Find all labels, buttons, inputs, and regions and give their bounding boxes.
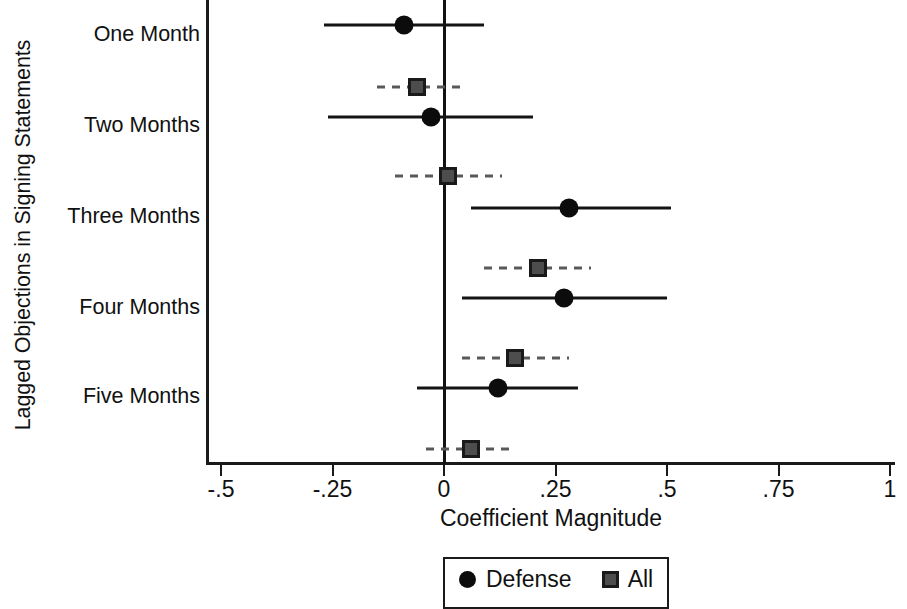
- legend: Defense All: [443, 557, 669, 609]
- x-tick-label: .5: [657, 478, 676, 501]
- y-tick-label: One Month: [40, 24, 200, 46]
- x-tick-label: 1: [884, 478, 897, 501]
- x-tick-mark: [220, 465, 222, 476]
- zero-reference-line: [443, 0, 446, 464]
- x-tick-mark: [443, 465, 445, 476]
- data-point-all: [506, 349, 524, 367]
- y-tick-label: Two Months: [40, 115, 200, 137]
- y-axis-line: [206, 0, 209, 465]
- data-point-all: [462, 440, 480, 458]
- legend-entry-all: All: [602, 568, 654, 591]
- data-point-defense: [559, 199, 578, 218]
- data-point-defense: [555, 289, 574, 308]
- circle-marker-icon: [459, 571, 476, 588]
- data-point-defense: [488, 379, 507, 398]
- data-point-defense: [394, 16, 413, 35]
- y-tick-label: Three Months: [40, 206, 200, 228]
- legend-entries: Defense All: [445, 559, 667, 600]
- x-tick-label: -.5: [208, 478, 235, 501]
- data-point-all: [439, 167, 457, 185]
- x-tick-mark: [666, 465, 668, 476]
- plot-area: -.5-.250.25.5.751: [206, 0, 896, 465]
- x-tick-mark: [778, 465, 780, 476]
- legend-entry-defense: Defense: [459, 568, 572, 591]
- data-point-defense: [421, 108, 440, 127]
- legend-label-defense: Defense: [486, 568, 572, 591]
- x-axis-line: [206, 462, 895, 465]
- data-point-all: [529, 259, 547, 277]
- y-tick-label: Five Months: [40, 386, 200, 408]
- square-marker-icon: [602, 571, 619, 588]
- y-axis-tick-labels: One MonthTwo MonthsThree MonthsFour Mont…: [36, 0, 200, 470]
- x-tick-label: .75: [763, 478, 795, 501]
- x-tick-label: 0: [438, 478, 451, 501]
- x-tick-mark: [332, 465, 334, 476]
- y-tick-label: Four Months: [40, 297, 200, 319]
- x-tick-label: .25: [540, 478, 572, 501]
- x-axis-title: Coefficient Magnitude: [206, 505, 896, 532]
- x-tick-mark: [555, 465, 557, 476]
- data-point-all: [408, 78, 426, 96]
- y-axis-title: Lagged Objections in Signing Statements: [11, 40, 36, 431]
- x-tick-label: -.25: [313, 478, 353, 501]
- x-tick-mark: [889, 465, 891, 476]
- legend-label-all: All: [628, 568, 654, 591]
